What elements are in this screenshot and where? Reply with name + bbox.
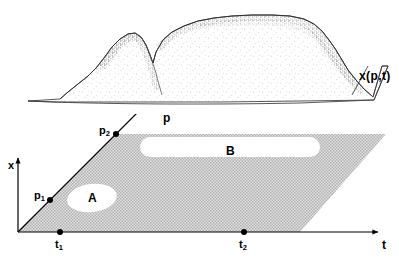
point-p1 [47,197,53,203]
figure-container: x(p,t) [0,0,399,259]
point-label-t1-sub: 1 [59,243,63,252]
point-label-p2-base: p [99,124,106,136]
surface-label: x(p,t) [359,70,391,82]
point-t2 [241,229,247,235]
point-label-p1: p1 [34,190,45,202]
point-label-p2: p2 [99,125,110,137]
point-label-t2-sub: 2 [243,243,247,252]
point-p2 [113,131,119,137]
point-label-p1-base: p [34,189,41,201]
region-label-a: A [88,192,97,204]
p-axis-label: p [163,112,170,124]
point-t1 [57,229,63,235]
surface-plot [0,0,399,120]
x-axis-label: x [8,160,14,171]
point-label-p2-sub: 2 [106,129,110,138]
region-label-b: B [226,145,235,157]
plane-diagram [0,114,399,259]
point-label-p1-sub: 1 [41,194,45,203]
shaded-plane-region [0,114,399,259]
point-label-t2: t2 [239,239,247,251]
t-axis-label: t [382,239,386,251]
point-label-t1: t1 [55,239,63,251]
